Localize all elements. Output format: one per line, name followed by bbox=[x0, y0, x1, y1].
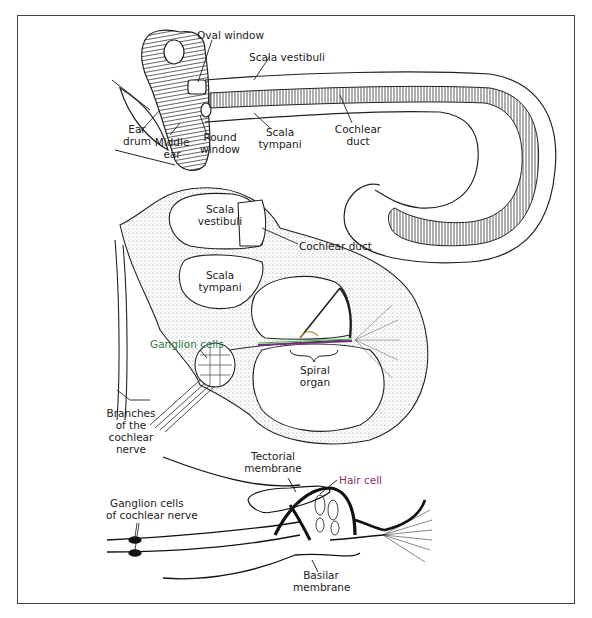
label-scala-tympani-mid: Scala tympani bbox=[195, 269, 245, 293]
label-middle-ear: Middle ear bbox=[150, 136, 194, 160]
label-scala-vestibuli-top: Scala vestibuli bbox=[249, 51, 325, 63]
label-scala-vestibuli-mid: Scala vestibuli bbox=[195, 203, 245, 227]
label-scala-tympani-top: Scala tympani bbox=[255, 126, 305, 150]
label-hair-cell: Hair cell bbox=[339, 474, 382, 486]
label-oval-window: Oval window bbox=[197, 29, 264, 41]
label-cochlear-duct-mid: Cochlear duct bbox=[299, 240, 372, 252]
label-tectorial-membrane: Tectorial membrane bbox=[243, 450, 303, 474]
label-ganglion-cells-cochlear-nerve: Ganglion cells of cochlear nerve bbox=[106, 497, 198, 521]
label-spiral-organ: Spiral organ bbox=[293, 364, 337, 388]
label-ganglion-cells: Ganglion cells bbox=[150, 338, 224, 350]
label-round-window: Round window bbox=[198, 131, 242, 155]
label-branches-cochlear-nerve: Branches of the cochlear nerve bbox=[103, 407, 159, 455]
label-cochlear-duct-top: Cochlear duct bbox=[330, 123, 386, 147]
cochlea-illustration bbox=[0, 0, 592, 618]
label-basilar-membrane: Basilar membrane bbox=[293, 569, 349, 593]
